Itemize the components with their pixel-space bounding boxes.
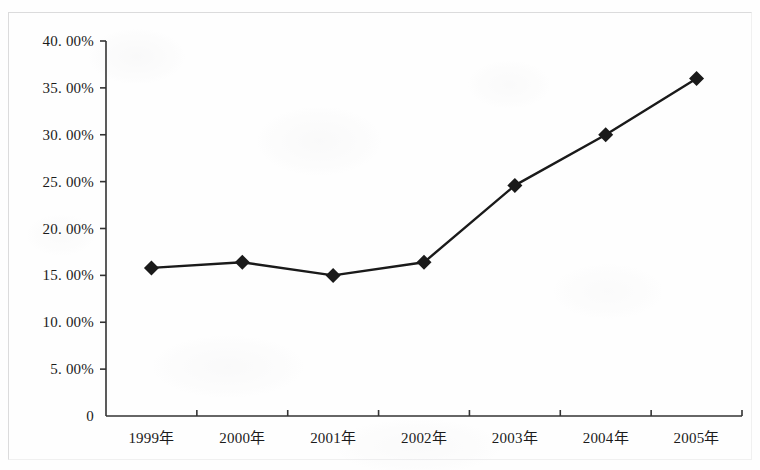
y-axis-tick-label: 15. 00%: [2, 267, 94, 284]
data-point-marker: [326, 268, 341, 283]
x-axis-tick-label: 2001年: [287, 426, 379, 447]
y-axis-tick-label: 0: [2, 408, 94, 425]
x-axis-ticks: [197, 410, 742, 416]
data-point-marker: [144, 260, 159, 275]
chart-plot-area: [0, 0, 760, 470]
x-axis-tick-label: 2000年: [196, 426, 288, 447]
line-chart-figure: 05. 00%10. 00%15. 00%20. 00%25. 00%30. 0…: [0, 0, 760, 470]
data-point-marker: [235, 255, 250, 270]
y-axis-tick-label: 5. 00%: [2, 361, 94, 378]
y-axis-tick-label: 25. 00%: [2, 173, 94, 190]
data-point-marker: [598, 127, 613, 142]
x-axis-tick-label: 2002年: [378, 426, 470, 447]
y-axis-tick-label: 20. 00%: [2, 220, 94, 237]
data-point-marker: [689, 71, 704, 86]
y-axis-tick-label: 35. 00%: [2, 79, 94, 96]
series-line: [151, 79, 696, 276]
y-axis-tick-label: 10. 00%: [2, 314, 94, 331]
y-axis-ticks: [100, 41, 106, 369]
x-axis-tick-label: 2004年: [560, 426, 652, 447]
y-axis-tick-label: 40. 00%: [2, 33, 94, 50]
x-axis-tick-label: 1999年: [105, 426, 197, 447]
x-axis-tick-label: 2003年: [469, 426, 561, 447]
y-axis-tick-label: 30. 00%: [2, 126, 94, 143]
series-markers: [144, 71, 704, 283]
x-axis-tick-label: 2005年: [651, 426, 743, 447]
axis-lines: [106, 41, 742, 416]
